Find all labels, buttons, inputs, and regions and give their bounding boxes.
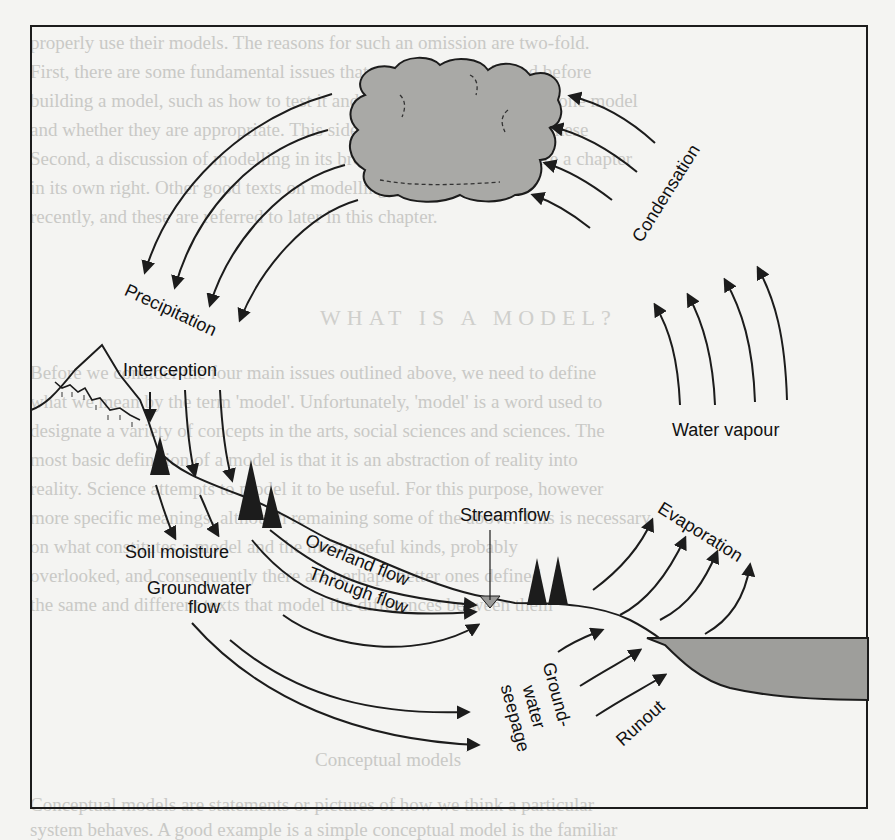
arrow-icon	[705, 565, 750, 634]
arrow-icon	[570, 96, 655, 143]
water-vapour-arrows	[655, 268, 787, 405]
arrow-icon	[156, 485, 175, 538]
arrow-icon	[240, 200, 358, 320]
arrow-icon	[660, 552, 717, 620]
label-groundwater-flow-1: Groundwater	[147, 578, 251, 599]
arrow-icon	[558, 630, 602, 652]
arrow-icon	[552, 127, 637, 172]
cloud-icon	[350, 58, 561, 202]
sea-water	[647, 638, 868, 700]
arrow-icon	[545, 163, 612, 200]
arrow-icon	[175, 130, 328, 287]
tree-icon	[238, 460, 264, 520]
tree-icon	[548, 556, 568, 605]
arrow-icon	[688, 295, 715, 405]
arrow-icon	[580, 650, 640, 686]
seepage-arrow	[230, 640, 468, 712]
label-streamflow: Streamflow	[460, 505, 550, 526]
label-interception: Interception	[123, 360, 217, 381]
label-groundwater-flow-2: flow	[188, 597, 220, 618]
tree-icon	[527, 558, 547, 605]
arrow-icon	[220, 390, 232, 480]
precipitation-arrows	[145, 94, 358, 320]
tree-icon	[150, 436, 170, 475]
arrow-icon	[655, 305, 680, 405]
groundwater-flow-arrow	[283, 615, 478, 647]
arrow-icon	[210, 165, 345, 305]
arrow-icon	[533, 195, 590, 228]
label-soil-moisture: Soil moisture	[125, 542, 229, 563]
arrow-icon	[200, 495, 218, 535]
arrow-icon	[758, 268, 787, 400]
arrow-icon	[725, 280, 755, 402]
arrow-icon	[620, 538, 685, 615]
soil-moisture-arrows	[156, 485, 218, 538]
arrow-icon	[185, 390, 195, 475]
label-water-vapour: Water vapour	[672, 420, 779, 441]
arrow-icon	[593, 520, 652, 590]
